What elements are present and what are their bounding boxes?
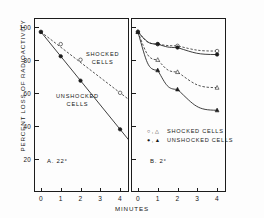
legend-row-unshocked: ● , ▲ UNSHOCKED CELLS <box>147 135 233 144</box>
legend-marker-shocked: ○ , △ <box>147 128 167 134</box>
panel-a-xlabel-0: 0 <box>39 195 43 202</box>
annot-unshocked-line1: UNSHOCKED <box>56 93 99 99</box>
annot-shocked-line1: SHOCKED <box>86 51 119 57</box>
legend-label-shocked: SHOCKED CELLS <box>167 128 224 134</box>
panel-a-ylabel-60: 60 <box>23 90 31 97</box>
legend-row-shocked: ○ , △ SHOCKED CELLS <box>147 126 233 135</box>
panel-a-xlabel-1: 1 <box>59 195 63 202</box>
legend-marker-unshocked: ● , ▲ <box>147 137 167 143</box>
figure-container: PERCENT LOSS OF RADIOACTIVITY 100 80 60 … <box>0 0 264 218</box>
panel-b-xlabel-0: 0 <box>136 195 140 202</box>
panel-a-xlabel-3: 3 <box>98 195 102 202</box>
x-axis-title: MINUTES <box>0 205 264 212</box>
panel-b-xlabel-4: 4 <box>215 195 219 202</box>
panel-b-xlabel-3: 3 <box>195 195 199 202</box>
panel-b-xlabel-1: 1 <box>156 195 160 202</box>
annot-unshocked-line2: CELLS <box>67 101 89 107</box>
panel-a-ylabel-40: 40 <box>23 123 31 130</box>
panel-a-annotation-shocked: SHOCKED CELLS <box>86 51 119 66</box>
panel-b: 0 1 2 3 4 ○ , △ SHOCKED CELLS ● , ▲ UNSH… <box>131 18 226 192</box>
annot-shocked-line2: CELLS <box>92 59 114 65</box>
panel-b-legend: ○ , △ SHOCKED CELLS ● , ▲ UNSHOCKED CELL… <box>147 126 233 144</box>
panel-a-xlabel-4: 4 <box>118 195 122 202</box>
panel-a-ylabel-20: 20 <box>23 156 31 163</box>
panel-a-ylabel-80: 80 <box>23 57 31 64</box>
panel-b-xlabel-2: 2 <box>176 195 180 202</box>
legend-label-unshocked: UNSHOCKED CELLS <box>167 137 233 143</box>
panel-a-xlabel-2: 2 <box>79 195 83 202</box>
panel-b-key: B. 2° <box>150 158 167 164</box>
y-axis-title: PERCENT LOSS OF RADIOACTIVITY <box>19 11 26 161</box>
panel-a-key: A. 22° <box>47 158 68 164</box>
panel-a-annotation-unshocked: UNSHOCKED CELLS <box>56 93 99 108</box>
panel-b-plot <box>131 18 226 192</box>
panel-a-ylabel-100: 100 <box>20 24 31 31</box>
panel-a: 100 80 60 40 20 0 1 2 3 4 SHOCKED CELLS … <box>34 18 129 192</box>
